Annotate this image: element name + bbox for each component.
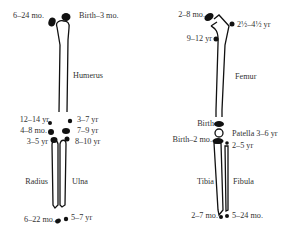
label-ankle-right: 5–24 mo.	[232, 211, 263, 221]
label-radius: Radius	[25, 177, 48, 187]
label-elbow-right-2: 7–9 yr	[77, 126, 98, 136]
label-proximal-fibula: 2–5 yr	[232, 141, 253, 151]
femur-outline	[211, 15, 229, 110]
radius-outline	[52, 141, 58, 208]
label-elbow-left-3: 3–5 yr	[27, 137, 48, 147]
label-patella: Patella 3–6 yr	[232, 129, 277, 139]
label-greater-trochanter: 2½–4½ yr	[237, 20, 270, 30]
label-elbow-left-1: 12–14 yr	[20, 115, 49, 125]
label-ulna: Ulna	[72, 177, 88, 187]
label-tibia: Tibia	[197, 177, 214, 187]
tibia-outline	[214, 143, 223, 215]
arm-diagram	[52, 21, 69, 208]
label-femur: Femur	[235, 72, 256, 82]
humerus-outline	[57, 21, 70, 112]
label-humerus-head-right: Birth–3 mo.	[79, 11, 119, 21]
label-ankle-left: 2–7 mo.	[191, 211, 218, 221]
ulna-outline	[60, 140, 66, 207]
fibula-outline	[225, 146, 228, 211]
label-lesser-trochanter: 9–12 yr	[187, 34, 212, 44]
patella-outline	[215, 129, 223, 137]
label-femur-head: 2–8 mo.	[178, 10, 205, 20]
label-humerus: Humerus	[73, 71, 103, 81]
label-distal-femur: Birth	[197, 119, 214, 129]
label-wrist-right: 5–7 yr	[71, 213, 92, 223]
label-elbow-right-3: 8–10 yr	[75, 137, 100, 147]
label-proximal-tibia: Birth–2 mo.	[172, 135, 212, 145]
label-fibula: Fibula	[233, 177, 254, 187]
label-wrist-left: 6–22 mo.	[24, 215, 55, 225]
label-elbow-left-2: 4–8 mo.	[20, 126, 47, 136]
label-humerus-head-left: 6–24 mo.	[13, 11, 44, 21]
label-elbow-right-1: 3–7 yr	[77, 115, 98, 125]
